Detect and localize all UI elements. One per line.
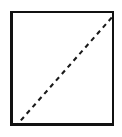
square-outline [10, 11, 114, 126]
diagonal-line-layer [13, 13, 112, 123]
figure-canvas [0, 0, 122, 137]
dashed-diagonal-line [15, 15, 112, 123]
